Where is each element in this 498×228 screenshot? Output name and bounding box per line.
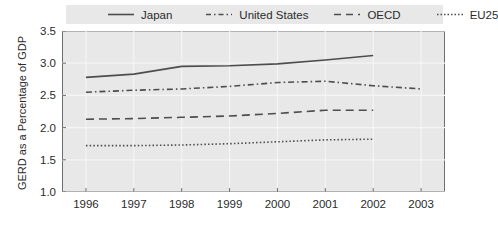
plot-canvas <box>62 31 445 192</box>
y-tick-label: 3.5 <box>26 25 56 37</box>
x-axis-tick-labels: 19961997199819992000200120022003 <box>0 198 461 214</box>
y-tick-label: 2.5 <box>26 89 56 101</box>
x-tick-label: 2002 <box>353 198 393 210</box>
plot-area <box>62 31 445 192</box>
x-tick-label: 1996 <box>66 198 106 210</box>
legend-item-oecd[interactable]: OECD <box>334 9 400 21</box>
y-axis-tick-labels: 1.01.52.02.53.03.5 <box>22 0 56 228</box>
legend-item-united-states[interactable]: United States <box>206 9 308 21</box>
x-tick-label: 1998 <box>162 198 202 210</box>
legend-label-eu25: EU25 <box>470 9 498 21</box>
y-tick-label: 2.0 <box>26 122 56 134</box>
gridlines <box>62 31 445 192</box>
legend-item-eu25[interactable]: EU25 <box>437 9 498 21</box>
legend-swatch-oecd-longdash-line-icon <box>334 9 360 20</box>
axis-ticks <box>62 31 421 192</box>
data-series-layer <box>86 55 421 145</box>
series-line-united-states <box>86 81 421 92</box>
legend-label-united-states: United States <box>239 9 308 21</box>
x-tick-label: 2001 <box>305 198 345 210</box>
chart-legend: Japan United States OECD <box>66 5 443 24</box>
y-tick-label: 1.0 <box>26 186 56 198</box>
x-tick-label: 2000 <box>257 198 297 210</box>
x-tick-label: 1999 <box>210 198 250 210</box>
legend-item-japan[interactable]: Japan <box>108 9 172 21</box>
legend-label-oecd: OECD <box>367 9 400 21</box>
x-tick-label: 1997 <box>114 198 154 210</box>
legend-label-japan: Japan <box>141 9 172 21</box>
y-tick-label: 3.0 <box>26 57 56 69</box>
legend-swatch-japan-solid-line-icon <box>108 9 134 20</box>
legend-swatch-united-states-dashdot-line-icon <box>206 9 232 20</box>
x-tick-label: 2003 <box>401 198 441 210</box>
y-tick-label: 1.5 <box>26 154 56 166</box>
legend-swatch-eu25-dotted-line-icon <box>437 9 463 20</box>
